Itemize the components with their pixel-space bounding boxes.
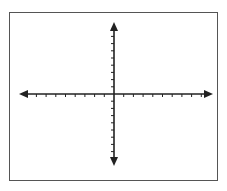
arrow-right-icon	[204, 90, 213, 98]
coordinate-plane	[0, 0, 227, 191]
arrow-down-icon	[110, 157, 118, 166]
